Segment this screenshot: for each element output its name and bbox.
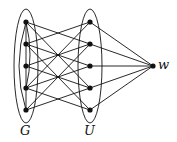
node-g [23,85,28,90]
node-g [23,63,28,68]
node-u [87,85,92,90]
label-G: G [20,124,30,137]
node-u [87,19,92,24]
node-u [87,63,92,68]
graph-canvas [0,0,177,142]
node-u [87,41,92,46]
node-g [23,41,28,46]
graph-diagram: G U w [0,0,177,142]
edge-g-arc [26,22,30,88]
node-u [87,107,92,112]
edge-u-w [90,66,153,88]
edge-u-w [90,66,153,110]
edge-u-w [90,22,153,66]
label-U: U [84,124,95,137]
node-g [23,19,28,24]
label-w: w [158,58,169,71]
node-g [23,107,28,112]
node-w [150,63,155,68]
edge-u-w [90,44,153,66]
